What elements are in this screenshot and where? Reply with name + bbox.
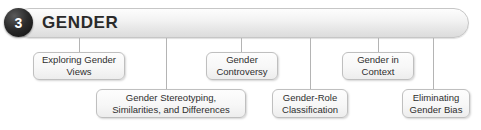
topic-node-gender-stereotyping[interactable]: Gender Stereotyping, Similarities, and D… <box>96 89 246 118</box>
chapter-number-text: 3 <box>15 16 23 30</box>
topic-node-gender-role-classification[interactable]: Gender-Role Classification <box>272 89 348 118</box>
connector-line-exploring-gender-views <box>79 38 80 52</box>
topic-node-label: Gender-Role Classification <box>282 92 338 116</box>
connector-line-gender-stereotyping <box>166 38 167 89</box>
connector-line-gender-role-classification <box>310 38 311 89</box>
connector-line-eliminating-gender-bias <box>433 38 434 89</box>
chapter-opener-diagram: 3 GENDER Exploring Gender ViewsGender St… <box>0 0 481 130</box>
connector-line-gender-controversy <box>241 38 242 52</box>
topic-node-eliminating-gender-bias[interactable]: Eliminating Gender Bias <box>402 89 470 118</box>
topic-node-label: Gender Controversy <box>216 54 267 78</box>
topic-node-gender-controversy[interactable]: Gender Controversy <box>206 52 278 80</box>
topic-node-exploring-gender-views[interactable]: Exploring Gender Views <box>33 52 125 80</box>
topic-node-gender-in-context[interactable]: Gender in Context <box>342 52 414 80</box>
chapter-number-badge: 3 <box>4 8 33 37</box>
topic-node-label: Gender in Context <box>357 54 399 78</box>
connector-line-gender-in-context <box>378 38 379 52</box>
topic-node-label: Exploring Gender Views <box>42 54 116 78</box>
topic-node-label: Gender Stereotyping, Similarities, and D… <box>112 92 230 116</box>
topic-node-label: Eliminating Gender Bias <box>410 92 463 116</box>
chapter-title: GENDER <box>42 13 118 33</box>
